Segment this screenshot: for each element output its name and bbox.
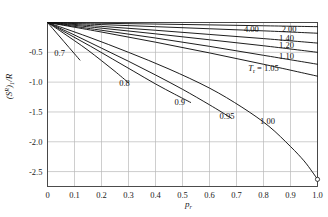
x-tick-label: 0.4 — [150, 190, 161, 200]
x-tick-label: 0.3 — [123, 190, 134, 200]
curve-label-tr-1.00: 1.00 — [260, 116, 275, 126]
x-tick-label: 0 — [45, 190, 49, 200]
x-tick-label: 1.0 — [312, 190, 323, 200]
critical-point-marker — [315, 177, 319, 181]
y-tick-label: -0.5 — [29, 47, 42, 57]
curve-label-tr-4.00: 4.00 — [244, 24, 259, 34]
x-tick-label: 0.1 — [69, 190, 80, 200]
x-tick-label: 0.9 — [285, 190, 296, 200]
curve-label-tr-1.10: 1.10 — [279, 51, 294, 61]
curve-label-tr-0.7: 0.7 — [54, 48, 65, 58]
critical-point-open-circle — [315, 177, 319, 181]
curve-label-tr-0.95: 0.95 — [220, 111, 235, 121]
y-tick-label: -1.5 — [29, 107, 42, 117]
y-tick-label: -2.0 — [29, 137, 42, 147]
x-tick-label: 0.6 — [204, 190, 215, 200]
y-axis-title: (SR)1/R — [3, 73, 15, 99]
curve-label-tr-1.05: Tr = 1.05 — [248, 63, 279, 74]
curve-label-tr-2.00: 2.00 — [282, 24, 297, 34]
y-tick-label: -2.5 — [29, 167, 42, 177]
x-tick-label: 0.7 — [231, 190, 242, 200]
curve-label-tr-0.8: 0.8 — [119, 78, 130, 88]
x-tick-label: 0.2 — [96, 190, 107, 200]
x-tick-label: 0.8 — [258, 190, 269, 200]
y-tick-label: -1.0 — [29, 77, 42, 87]
residual-entropy-chart: 00.10.20.30.40.50.60.70.80.91.0 -2.5-2.0… — [0, 0, 328, 217]
curve-label-tr-0.9: 0.9 — [174, 97, 185, 107]
chart-figure: 00.10.20.30.40.50.60.70.80.91.0 -2.5-2.0… — [0, 0, 328, 217]
